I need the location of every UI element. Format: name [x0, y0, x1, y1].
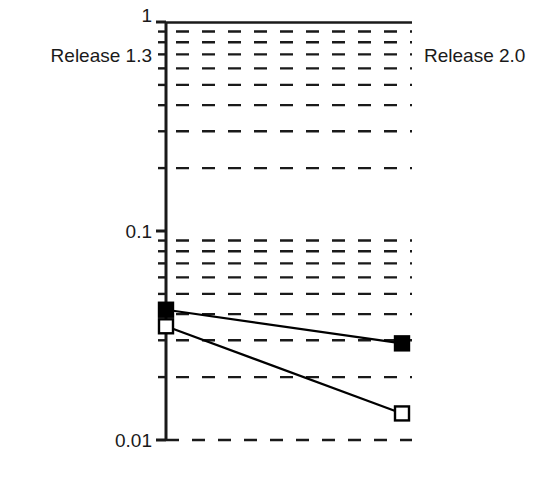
data-point-marker-open-square[interactable] [395, 406, 409, 420]
y-tick-label-top: 1 [141, 5, 152, 26]
data-point-marker-filled-square[interactable] [395, 336, 409, 350]
data-point-marker-filled-square[interactable] [159, 303, 173, 317]
y-tick-label-mid: 0.1 [126, 221, 152, 242]
left-release-label: Release 1.3 [51, 45, 152, 66]
series-layer [159, 303, 409, 421]
log-line-chart: 1 0.1 0.01 Release 1.3 Release 2.0 [0, 0, 560, 480]
data-point-marker-open-square[interactable] [159, 319, 173, 333]
right-release-label: Release 2.0 [424, 45, 525, 66]
chart-page: 1 0.1 0.01 Release 1.3 Release 2.0 [0, 0, 560, 480]
gridline-group [166, 32, 412, 440]
y-tick-label-bottom: 0.01 [115, 430, 152, 451]
